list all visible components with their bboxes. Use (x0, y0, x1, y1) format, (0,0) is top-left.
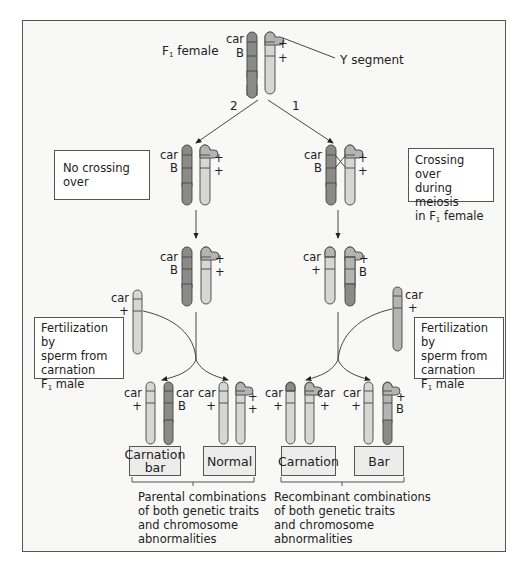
caption-recombinant: Recombinant combinations of both genetic… (274, 490, 431, 546)
caption-line: of both genetic traits (138, 504, 266, 518)
caption-line: abnormalities (274, 532, 431, 546)
offspring-carnation-bar (146, 382, 173, 445)
branch-number-1: 1 (292, 100, 300, 113)
y-segment-pointer (283, 38, 335, 58)
allele-bar: B (359, 266, 367, 279)
caption-line: Parental combinations (138, 490, 266, 504)
sperm-right-chromosome (393, 287, 402, 351)
note-fertilization-right: Fertilization by sperm from carnation F1… (414, 317, 504, 379)
offspring-bar (364, 382, 400, 445)
note-no-crossing: No crossing over (54, 150, 150, 200)
allele-plus: + (214, 165, 224, 178)
phenotype-normal: Normal (203, 446, 256, 476)
allele-car: car (222, 33, 244, 46)
phenotype-label: bar (145, 461, 166, 474)
note-line: sperm from (41, 349, 117, 363)
note-line: sperm from (421, 349, 497, 363)
y-segment-label: Y segment (340, 54, 404, 67)
allele-plus: + (339, 400, 361, 413)
allele-plus: + (215, 266, 225, 279)
branch-number-2: 2 (230, 100, 238, 113)
note-line: in F1 female (415, 209, 487, 227)
allele-plus: + (194, 400, 216, 413)
phenotype-bar: Bar (354, 446, 404, 476)
recombinant-bracket (281, 477, 404, 486)
note-line: during meiosis (415, 181, 487, 209)
parental-bracket (132, 477, 254, 486)
sperm-left-chromosome (133, 290, 142, 354)
allele-bar: B (300, 162, 322, 175)
note-line: F1 male (421, 377, 497, 395)
allele-plus: + (261, 400, 283, 413)
note-line: Fertilization by (421, 321, 497, 349)
caption-line: of both genetic traits (274, 504, 431, 518)
note-line: F1 male (41, 377, 117, 395)
allele-plus: + (278, 38, 288, 51)
caption-parental: Parental combinations of both genetic tr… (138, 490, 266, 546)
allele-bar: B (156, 162, 178, 175)
allele-plus: + (299, 264, 321, 277)
allele-bar: B (156, 264, 178, 277)
caption-line: and chromosome (138, 518, 266, 532)
allele-plus: + (278, 52, 288, 65)
chromosome-diagram (0, 0, 531, 575)
allele-plus: + (408, 302, 418, 315)
arrow-crossing (268, 100, 333, 143)
note-crossing-over: Crossing over during meiosis in F1 femal… (408, 148, 494, 202)
allele-plus: + (320, 400, 330, 413)
caption-line: and chromosome (274, 518, 431, 532)
no-crossing-pair (182, 145, 218, 205)
allele-bar: B (222, 47, 244, 60)
allele-plus: + (120, 400, 142, 413)
phenotype-carnation-bar: Carnation bar (129, 446, 181, 476)
note-fertilization-left: Fertilization by sperm from carnation F1… (34, 317, 124, 379)
arrow-no-crossing (196, 100, 258, 143)
allele-plus: + (358, 165, 368, 178)
recombinant-pair (325, 247, 363, 306)
caption-line: abnormalities (138, 532, 266, 546)
f1-female-x-chromosome (247, 32, 257, 98)
note-line: Crossing over (415, 153, 487, 181)
allele-plus: + (248, 403, 258, 416)
allele-bar: B (178, 400, 186, 413)
note-line: carnation (41, 363, 117, 377)
phenotype-carnation: Carnation (281, 446, 336, 476)
f1-female-label: F1 female (162, 45, 219, 62)
allele-bar: B (396, 403, 404, 416)
note-line: Fertilization by (41, 321, 117, 349)
caption-line: Recombinant combinations (274, 490, 431, 504)
parental-pair (182, 247, 219, 306)
note-line: carnation (421, 363, 497, 377)
